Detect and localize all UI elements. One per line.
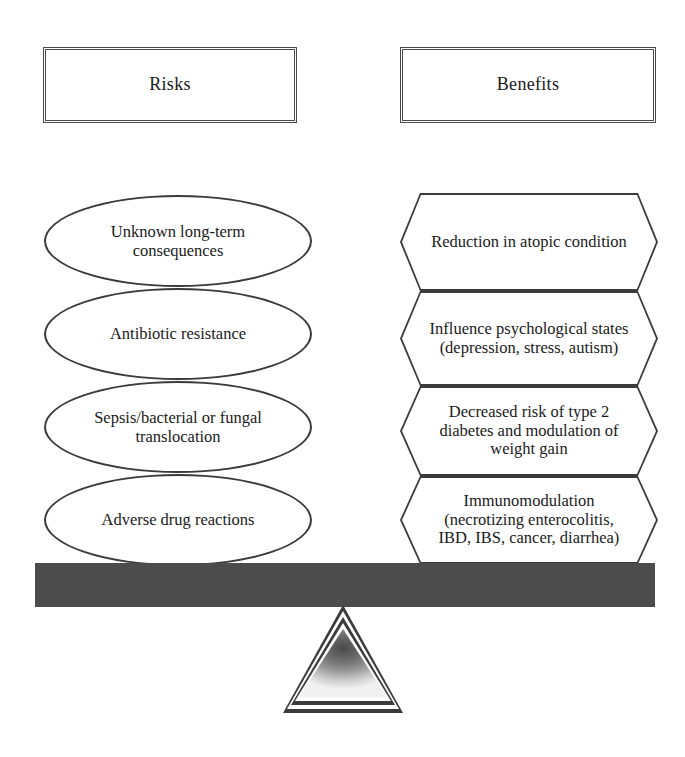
- balance-beam: [35, 563, 655, 607]
- benefit-label: Reduction in atopic condition: [405, 233, 653, 252]
- benefit-hexagon-reduction-in-atopic-condition: Reduction in atopic condition: [400, 193, 658, 291]
- risk-ellipse-unknown-long-term-consequences: Unknown long-term consequences: [44, 195, 312, 287]
- risk-ellipse-sepsis-bacterial-or-fungal-translocation: Sepsis/bacterial or fungal translocation: [44, 381, 312, 473]
- risk-label: Adverse drug reactions: [75, 510, 280, 529]
- benefits-header-label: Benefits: [497, 74, 559, 96]
- benefit-hexagon-influence-psychological-states: Influence psychological states (depressi…: [400, 291, 658, 386]
- benefits-header-box: Benefits: [400, 47, 656, 123]
- risk-ellipse-adverse-drug-reactions: Adverse drug reactions: [44, 474, 312, 566]
- benefit-label: Influence psychological states (depressi…: [400, 320, 658, 358]
- risk-label: Unknown long-term consequences: [46, 222, 310, 261]
- risks-header-label: Risks: [149, 74, 191, 96]
- risk-label: Sepsis/bacterial or fungal translocation: [46, 408, 310, 447]
- benefit-hexagon-immunomodulation: Immunomodulation (necrotizing enterocoli…: [400, 476, 658, 564]
- benefit-label: Immunomodulation (necrotizing enterocoli…: [400, 492, 658, 548]
- risk-ellipse-antibiotic-resistance: Antibiotic resistance: [44, 288, 312, 380]
- risks-header-box: Risks: [43, 47, 297, 123]
- benefit-hexagon-decreased-risk-of-type-2-diabetes: Decreased risk of type 2 diabetes and mo…: [400, 386, 658, 476]
- risk-label: Antibiotic resistance: [84, 324, 272, 343]
- benefit-label: Decreased risk of type 2 diabetes and mo…: [400, 403, 658, 459]
- fulcrum-triangle: [283, 605, 403, 713]
